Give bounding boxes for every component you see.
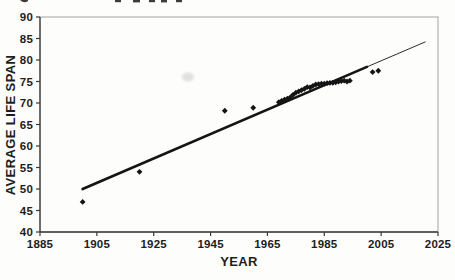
y-tick-label: 85: [20, 33, 34, 45]
y-tick-label: 40: [20, 226, 33, 238]
x-tick-label: 1905: [84, 238, 111, 250]
x-axis-title: YEAR: [220, 254, 258, 269]
plot-area-border: [40, 17, 438, 232]
y-tick-label: 70: [20, 97, 33, 109]
trend-line: [83, 42, 426, 189]
data-point-diamond: [137, 169, 143, 175]
x-tick-label: 1925: [141, 238, 168, 250]
x-tick-label: 2005: [368, 238, 395, 250]
y-tick-label: 65: [20, 119, 34, 131]
data-point-diamond: [250, 105, 256, 111]
data-point-diamond: [370, 69, 376, 75]
data-point-diamond: [80, 199, 86, 205]
x-tick-label: 2025: [425, 238, 452, 250]
trend-line-thin-extension: [367, 42, 425, 67]
x-tick-label: 1965: [254, 238, 281, 250]
x-tick-label: 1945: [197, 238, 224, 250]
y-tick-label: 80: [20, 54, 33, 66]
data-points: [80, 68, 381, 205]
y-tick-label: 75: [20, 76, 34, 88]
y-tick-label: 60: [20, 140, 33, 152]
y-axis: 4045505560657075808590: [20, 11, 40, 238]
y-tick-label: 90: [20, 11, 33, 23]
cropped-text-fragments: [20, 0, 182, 2]
life-span-scatter-figure: 4045505560657075808590 18851905192519451…: [0, 0, 455, 280]
x-tick-label: 1885: [27, 238, 54, 250]
y-tick-label: 45: [20, 205, 34, 217]
x-axis: 18851905192519451965198520052025: [27, 232, 452, 250]
data-point-diamond: [222, 108, 228, 114]
x-tick-label: 1985: [311, 238, 338, 250]
y-tick-label: 55: [20, 162, 34, 174]
life-span-chart: 4045505560657075808590 18851905192519451…: [0, 0, 455, 280]
data-point-diamond: [375, 68, 381, 74]
y-tick-label: 50: [20, 183, 33, 195]
y-axis-title: AVERAGE LIFE SPAN: [3, 55, 18, 196]
scan-smudge-artifact: [182, 73, 194, 82]
